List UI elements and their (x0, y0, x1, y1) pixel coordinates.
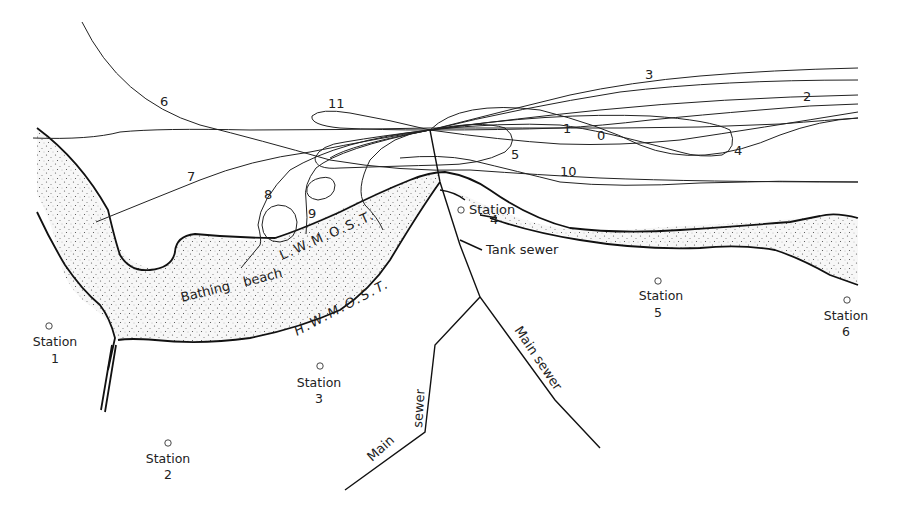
svg-text:1: 1 (51, 351, 59, 366)
track-label-6: 6 (160, 94, 168, 109)
main-sewer-label-left-sewer: sewer (410, 388, 428, 428)
station-marker-icon (317, 363, 323, 369)
tank-sewer-label: Tank sewer (485, 242, 559, 257)
track-label-10: 10 (560, 164, 577, 179)
track-label-8: 8 (264, 187, 272, 202)
track-6 (82, 22, 858, 182)
svg-text:Station: Station (146, 451, 190, 466)
station-6: Station 6 (824, 297, 868, 339)
svg-text:6: 6 (842, 324, 850, 339)
svg-text:2: 2 (164, 467, 172, 482)
track-label-5: 5 (511, 147, 519, 162)
track-label-7: 7 (187, 169, 195, 184)
track-10 (330, 130, 858, 185)
station-marker-icon (165, 440, 171, 446)
svg-text:Station: Station (297, 375, 341, 390)
svg-text:Station: Station (824, 308, 868, 323)
station-5: Station 5 (639, 278, 683, 320)
track-label-4: 4 (734, 143, 742, 158)
svg-text:Station: Station (639, 288, 683, 303)
tank-sewer-leader (460, 240, 482, 250)
station-marker-icon (46, 323, 52, 329)
track-label-11: 11 (328, 96, 345, 111)
main-sewer-label-right: Main sewer (512, 323, 566, 393)
track-big-loop (361, 108, 858, 231)
svg-text:4: 4 (490, 212, 498, 227)
station-3: Station 3 (297, 363, 341, 406)
track-label-0: 0 (597, 128, 605, 143)
station-marker-icon (655, 278, 661, 284)
float-track-diagram: 11 6 7 8 9 10 5 1 0 4 3 2 L.W.M.O.S.T. H… (0, 0, 899, 519)
station-marker-icon (458, 207, 464, 213)
station-2: Station 2 (146, 440, 190, 482)
track-label-1: 1 (563, 121, 571, 136)
main-sewer-label-left-main: Main (364, 432, 397, 464)
track-label-2: 2 (803, 89, 811, 104)
svg-text:Station: Station (33, 334, 77, 349)
svg-text:5: 5 (654, 305, 662, 320)
station-1: Station 1 (33, 323, 77, 366)
svg-text:3: 3 (315, 391, 323, 406)
station-marker-icon (844, 297, 850, 303)
track-label-group: 11 6 7 8 9 10 5 1 0 4 3 2 (160, 67, 811, 221)
stream-mouth (101, 345, 116, 412)
track-9-loop (307, 177, 335, 200)
track-label-9: 9 (308, 206, 316, 221)
track-label-3: 3 (645, 67, 653, 82)
